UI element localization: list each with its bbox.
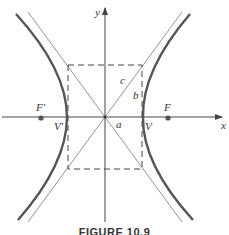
hyperbola-diagram: y x F′ V′ V F a b c xyxy=(0,0,229,235)
y-axis-label: y xyxy=(94,6,100,18)
focus-f-prime xyxy=(38,115,43,120)
label-b: b xyxy=(133,89,139,101)
label-f: F xyxy=(163,101,171,113)
figure-caption: FIGURE 10.9 xyxy=(0,226,229,235)
label-f-prime: F′ xyxy=(35,101,46,113)
x-axis-label: x xyxy=(220,119,226,131)
focus-f xyxy=(165,115,170,120)
label-v: V xyxy=(145,120,153,132)
label-c: c xyxy=(120,74,125,86)
hyperbola-figure: y x F′ V′ V F a b c FIGURE 10.9 xyxy=(0,0,229,235)
label-v-prime: V′ xyxy=(54,120,64,132)
label-a: a xyxy=(116,118,122,130)
origin xyxy=(104,116,107,119)
